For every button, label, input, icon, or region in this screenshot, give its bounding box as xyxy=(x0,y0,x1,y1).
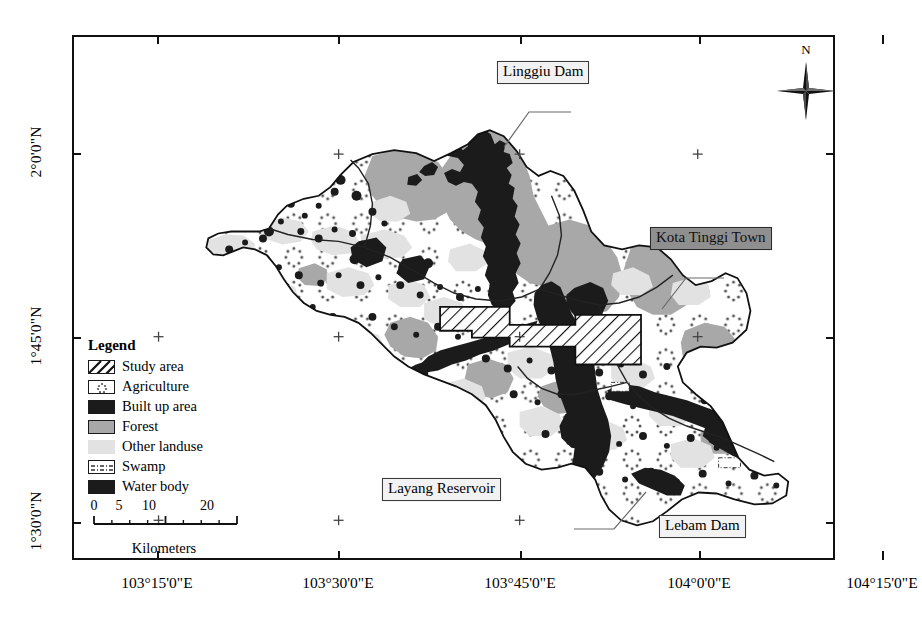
callout-kota-tinggi-town[interactable]: Kota Tinggi Town xyxy=(650,227,772,250)
graticule-cross xyxy=(334,515,344,525)
legend-item-swamp: Swamp xyxy=(88,457,238,476)
legend-label-built-up: Built up area xyxy=(122,399,197,414)
scale-bar-units: Kilometers xyxy=(88,540,240,557)
frame-tick-right xyxy=(826,153,835,155)
frame-tick-top xyxy=(699,35,701,44)
callout-linggiu-dam[interactable]: Linggiu Dam xyxy=(497,61,589,84)
frame-tick-bottom xyxy=(520,551,522,560)
legend-title: Legend xyxy=(88,338,238,353)
graticule-cross xyxy=(693,149,703,159)
legend-swatch-other-landuse xyxy=(88,440,115,454)
legend-item-agriculture: Agriculture xyxy=(88,377,238,396)
legend-swatch-built-up xyxy=(88,400,115,414)
legend-rows: Study areaAgricultureBuilt up areaForest… xyxy=(88,357,238,496)
longitude-label: 103°30'0"E xyxy=(278,574,398,592)
frame-tick-bottom xyxy=(699,551,701,560)
legend-item-built-up: Built up area xyxy=(88,397,238,416)
graticule-cross xyxy=(515,515,525,525)
callout-lebam-dam[interactable]: Lebam Dam xyxy=(659,515,746,538)
frame-tick-top xyxy=(338,35,340,44)
frame-tick-right xyxy=(826,522,835,524)
scale-tick-label: 5 xyxy=(116,498,123,514)
legend-swatch-swamp xyxy=(88,460,115,474)
scale-bar-graphic xyxy=(88,515,244,533)
legend-item-water-body: Water body xyxy=(88,477,238,496)
legend-label-forest: Forest xyxy=(122,419,158,434)
longitude-label: 103°45'0"E xyxy=(460,574,580,592)
longitude-label: 103°15'0"E xyxy=(97,574,217,592)
frame-tick-left xyxy=(72,337,81,339)
graticule-cross xyxy=(334,332,344,342)
frame-tick-top xyxy=(157,35,159,44)
compass-star-icon xyxy=(775,60,837,122)
legend-label-agriculture: Agriculture xyxy=(122,379,189,394)
callout-layang-reservoir[interactable]: Layang Reservoir xyxy=(382,478,501,501)
north-arrow: N xyxy=(775,42,837,122)
longitude-label: 104°15'0"E xyxy=(822,574,922,592)
legend-swatch-agriculture xyxy=(88,380,115,394)
north-letter: N xyxy=(775,42,837,58)
latitude-label: 2°0'0"N xyxy=(27,112,45,192)
scale-tick-label: 20 xyxy=(200,498,214,514)
frame-tick-top xyxy=(882,35,884,44)
legend-item-other-landuse: Other landuse xyxy=(88,437,238,456)
legend-label-water-body: Water body xyxy=(122,479,189,494)
legend-label-other-landuse: Other landuse xyxy=(122,439,203,454)
legend-label-swamp: Swamp xyxy=(122,459,166,474)
frame-tick-left xyxy=(72,522,81,524)
frame-tick-top xyxy=(520,35,522,44)
frame-tick-bottom xyxy=(882,551,884,560)
frame-tick-bottom xyxy=(338,551,340,560)
latitude-label: 1°30'0"N xyxy=(27,481,45,561)
scale-bar: 051020 Kilometers xyxy=(88,498,248,557)
legend-swatch-forest xyxy=(88,420,115,434)
scale-tick-label: 10 xyxy=(142,498,156,514)
legend-item-forest: Forest xyxy=(88,417,238,436)
legend-label-study-area: Study area xyxy=(122,359,184,374)
graticule-cross xyxy=(334,149,344,159)
scale-bar-numbers: 051020 xyxy=(88,498,248,515)
longitude-label: 104°0'0"E xyxy=(639,574,759,592)
scale-tick-label: 0 xyxy=(91,498,98,514)
legend-swatch-study-area xyxy=(88,360,115,374)
latitude-label: 1°45'0"N xyxy=(27,296,45,376)
frame-tick-left xyxy=(72,153,81,155)
legend-swatch-water-body xyxy=(88,480,115,494)
legend: Legend Study areaAgricultureBuilt up are… xyxy=(88,338,238,497)
frame-tick-right xyxy=(826,337,835,339)
legend-item-study-area: Study area xyxy=(88,357,238,376)
